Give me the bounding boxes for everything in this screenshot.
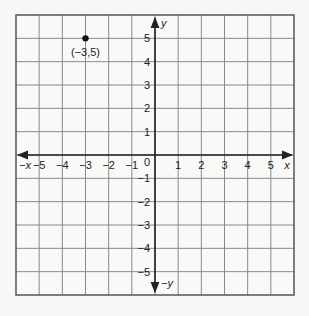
y-tick-label: −4 [137,242,150,254]
y-tick-label: −2 [137,196,150,208]
x-tick-label: 3 [221,159,227,171]
x-tick-label: −4 [56,159,69,171]
y-tick-label: 5 [144,32,150,44]
x-axis-negative-label: −x [19,159,31,171]
x-tick-label: 2 [198,159,204,171]
origin-label: 0 [144,156,150,168]
x-tick-label: −1 [126,159,139,171]
x-tick-label: 4 [245,159,251,171]
x-tick-label: −2 [102,159,115,171]
x-axis-label: x [283,159,290,171]
x-tick-label: −5 [33,159,46,171]
y-tick-label: 2 [144,102,150,114]
y-tick-label: 4 [144,56,150,68]
y-tick-label: −3 [137,219,150,231]
coordinate-plane: −5−4−3−2−11234554321−1−2−3−4−50x−xy−y(−3… [0,0,309,316]
y-tick-label: 3 [144,79,150,91]
data-point [82,35,88,41]
x-tick-label: −3 [79,159,92,171]
x-tick-label: 5 [268,159,274,171]
point-label: (−3,5) [71,46,100,58]
x-tick-label: 1 [175,159,181,171]
y-tick-label: −1 [137,172,150,184]
y-axis-negative-label: −y [161,277,174,289]
y-tick-label: 1 [144,126,150,138]
y-tick-label: −5 [137,266,150,278]
